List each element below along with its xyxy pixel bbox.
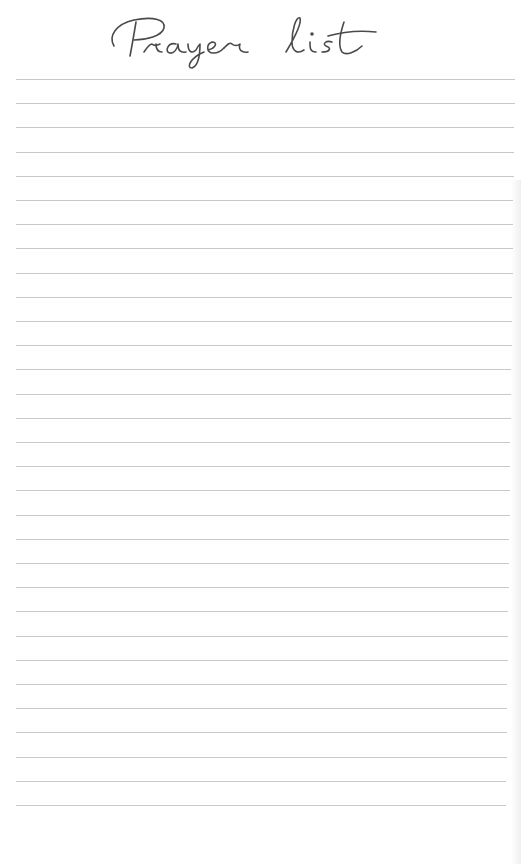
ruled-line [16, 708, 507, 709]
ruled-line [16, 732, 507, 733]
ruled-line [16, 684, 507, 685]
ruled-line [16, 176, 514, 177]
ruled-line [16, 418, 511, 419]
prayer-list-page [0, 0, 521, 864]
ruled-line [16, 200, 513, 201]
ruled-line [16, 345, 512, 346]
ruled-line [16, 297, 512, 298]
ruled-line [16, 273, 513, 274]
ruled-lines [0, 0, 521, 864]
ruled-line [16, 781, 506, 782]
ruled-line [16, 394, 511, 395]
ruled-line [16, 466, 510, 467]
ruled-line [16, 152, 514, 153]
ruled-line [16, 224, 513, 225]
ruled-line [16, 539, 509, 540]
ruled-line [16, 757, 507, 758]
ruled-line [16, 515, 510, 516]
ruled-line [16, 805, 506, 806]
ruled-line [16, 248, 513, 249]
ruled-line [16, 321, 512, 322]
ruled-line [16, 127, 514, 128]
ruled-line [16, 611, 508, 612]
ruled-line [16, 103, 515, 104]
ruled-line [16, 369, 511, 370]
ruled-line [16, 587, 509, 588]
ruled-line [16, 490, 510, 491]
ruled-line [16, 563, 509, 564]
ruled-line [16, 660, 508, 661]
ruled-line [16, 79, 515, 80]
ruled-line [16, 636, 508, 637]
ruled-line [16, 442, 510, 443]
